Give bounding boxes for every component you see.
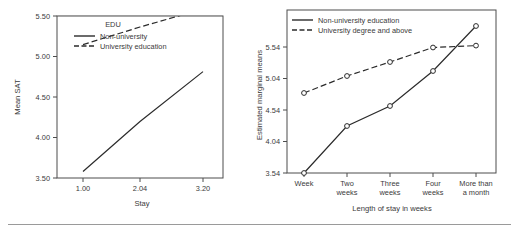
- right-xtick-label-3-line2: weeks: [379, 188, 401, 197]
- left-ytick-label-1: 3.50: [36, 174, 50, 183]
- left-ytick-label-5: 5.50: [36, 12, 50, 21]
- right-xtick-label-1: Week: [295, 179, 314, 188]
- left-y-axis-title: Mean SAT: [13, 79, 22, 115]
- right-x-ticks: [304, 173, 476, 177]
- left-legend-label-2: University education: [100, 42, 167, 51]
- figure-container: 5.50 5.00 4.50 4.00 3.50 Mean SAT 1.00 2…: [0, 0, 519, 231]
- right-legend-label-1: Non-university education: [318, 16, 399, 25]
- right-ytick-label-5: 5.54: [266, 43, 280, 52]
- footer-divider: [8, 224, 511, 225]
- right-y-axis-title: Estimated marginal means: [255, 50, 264, 140]
- left-xtick-label-1: 1.00: [76, 184, 90, 193]
- right-xtick-label-5-line1: More than: [459, 179, 492, 188]
- right-chart-svg: 5.54 5.04 4.54 4.04 3.54 Estimated margi…: [252, 0, 519, 231]
- left-legend-title: EDU: [105, 20, 121, 29]
- right-xtick-label-4-line1: Four: [425, 179, 441, 188]
- right-ytick-label-2: 4.04: [266, 137, 280, 146]
- left-y-ticks: [53, 16, 57, 178]
- left-ytick-label-2: 4.00: [36, 133, 50, 142]
- left-xtick-label-3: 3.20: [196, 184, 210, 193]
- left-xtick-label-2: 2.04: [133, 184, 147, 193]
- chart-panel-left: 5.50 5.00 4.50 4.00 3.50 Mean SAT 1.00 2…: [0, 0, 255, 231]
- right-ytick-label-1: 3.54: [266, 169, 280, 178]
- left-x-axis-title: Stay: [134, 199, 149, 208]
- left-ytick-label-3: 4.50: [36, 93, 50, 102]
- right-legend-label-2: University degree and above: [318, 26, 412, 35]
- right-xtick-label-5-line2: a month: [463, 188, 490, 197]
- right-x-axis-title: Length of stay in weeks: [352, 204, 432, 213]
- right-ytick-label-4: 5.04: [266, 74, 280, 83]
- chart-panel-right: 5.54 5.04 4.54 4.04 3.54 Estimated margi…: [252, 0, 519, 231]
- left-chart-svg: 5.50 5.00 4.50 4.00 3.50 Mean SAT 1.00 2…: [0, 0, 255, 231]
- left-ytick-label-4: 5.00: [36, 52, 50, 61]
- left-x-ticks: [83, 178, 203, 182]
- right-xtick-label-3-line1: Three: [380, 179, 399, 188]
- right-xtick-label-2-line1: Two: [340, 179, 354, 188]
- right-xtick-label-4-line2: weeks: [422, 188, 444, 197]
- right-ytick-label-3: 4.54: [266, 106, 280, 115]
- right-y-ticks: [283, 47, 287, 173]
- right-xtick-label-2-line2: weeks: [336, 188, 358, 197]
- left-legend-label-1: Non-university: [100, 32, 148, 41]
